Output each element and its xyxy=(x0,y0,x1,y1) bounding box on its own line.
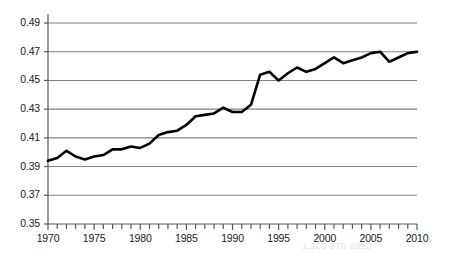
y-tick-label: 0.49 xyxy=(6,16,40,28)
x-tick-label: 1990 xyxy=(213,232,253,244)
y-tick-label: 0.47 xyxy=(6,45,40,57)
line-chart: 0.350.370.390.410.430.450.470.49 1970197… xyxy=(0,0,454,256)
x-tick-label: 1995 xyxy=(259,232,299,244)
y-tick-label: 0.43 xyxy=(6,102,40,114)
y-tick-label: 0.41 xyxy=(6,131,40,143)
y-tick-label: 0.39 xyxy=(6,160,40,172)
x-tick-label: 1985 xyxy=(166,232,206,244)
y-tick-label: 0.35 xyxy=(6,217,40,229)
x-tick-label: 1970 xyxy=(28,232,68,244)
y-tick-label: 0.37 xyxy=(6,188,40,200)
y-tick-label: 0.45 xyxy=(6,73,40,85)
x-tick-label: 2010 xyxy=(397,232,437,244)
chart-plot-area xyxy=(0,0,454,256)
data-series-line xyxy=(48,52,417,161)
series-line-gini xyxy=(48,52,417,161)
x-axis-ticks xyxy=(48,224,417,230)
x-tick-label: 1975 xyxy=(74,232,114,244)
x-tick-label: 1980 xyxy=(120,232,160,244)
scan-bleed-artifact: 1.200 870 2010 xyxy=(302,241,372,251)
gridlines xyxy=(48,23,417,195)
